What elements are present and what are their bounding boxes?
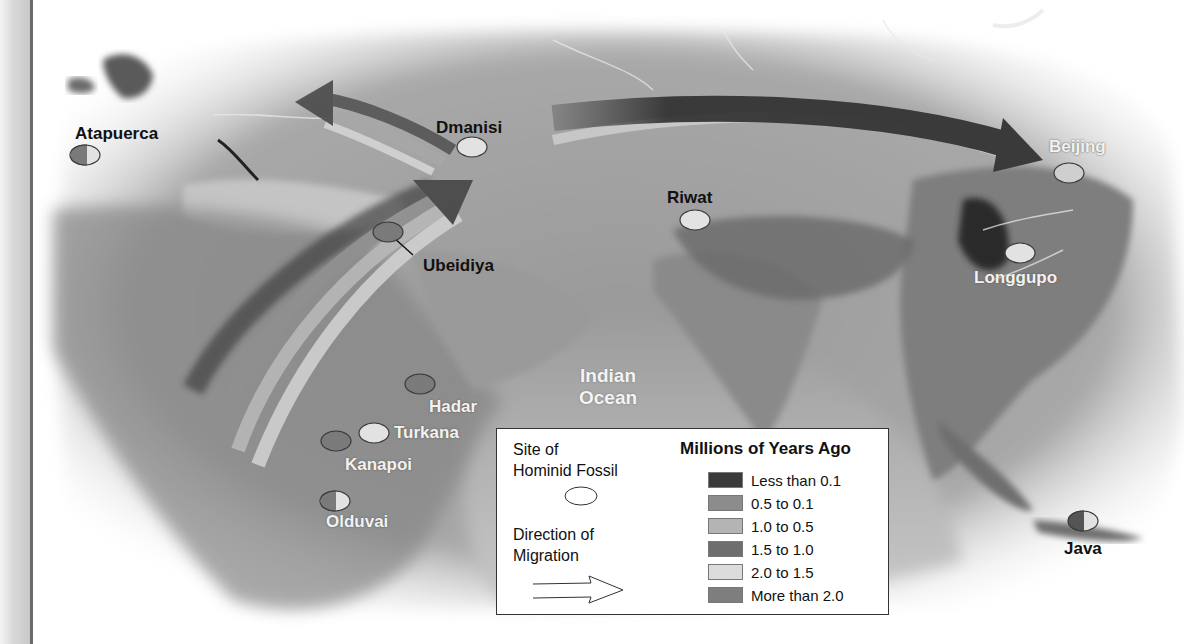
swatch-more-than-2-0 xyxy=(708,587,743,603)
legend-range-4: 2.0 to 1.5 xyxy=(708,562,814,582)
swatch-0-5-to-0-1 xyxy=(708,495,743,511)
legend-range-3: 1.5 to 1.0 xyxy=(708,539,814,559)
site-label-java: Java xyxy=(1064,539,1102,559)
legend-direction-label-line1: Direction of xyxy=(513,524,594,545)
swatch-2-0-to-1-5 xyxy=(708,564,743,580)
site-label-kanapoi: Kanapoi xyxy=(345,455,412,475)
legend-site-label-line1: Site of xyxy=(513,439,558,460)
site-label-beijing: Beijing xyxy=(1049,137,1106,157)
legend-range-0: Less than 0.1 xyxy=(708,470,841,490)
legend-range-1: 0.5 to 0.1 xyxy=(708,493,814,513)
site-label-longgupo: Longgupo xyxy=(974,268,1057,288)
site-label-olduvai: Olduvai xyxy=(326,512,388,532)
legend-heading: Millions of Years Ago xyxy=(680,439,851,459)
migration-arrow-icon xyxy=(531,575,627,605)
legend-site-label-line2: Hominid Fossil xyxy=(513,460,618,481)
ocean-label-indian-ocean: Indian Ocean xyxy=(579,365,637,409)
site-label-atapuerca: Atapuerca xyxy=(75,124,158,144)
map-legend: Site of Hominid Fossil Direction of Migr… xyxy=(496,428,889,615)
swatch-1-0-to-0-5 xyxy=(708,518,743,534)
page-gutter xyxy=(0,0,30,644)
site-label-hadar: Hadar xyxy=(429,397,477,417)
site-label-turkana: Turkana xyxy=(394,423,459,443)
legend-range-5: More than 2.0 xyxy=(708,585,844,605)
swatch-1-5-to-1-0 xyxy=(708,541,743,557)
site-label-ubeidiya: Ubeidiya xyxy=(423,256,494,276)
site-label-riwat: Riwat xyxy=(667,188,712,208)
site-label-dmanisi: Dmanisi xyxy=(436,118,502,138)
legend-range-2: 1.0 to 0.5 xyxy=(708,516,814,536)
swatch-less-than-0-1 xyxy=(708,472,743,488)
fossil-site-ellipse-icon xyxy=(563,485,599,507)
legend-direction-label-line2: Migration xyxy=(513,545,579,566)
